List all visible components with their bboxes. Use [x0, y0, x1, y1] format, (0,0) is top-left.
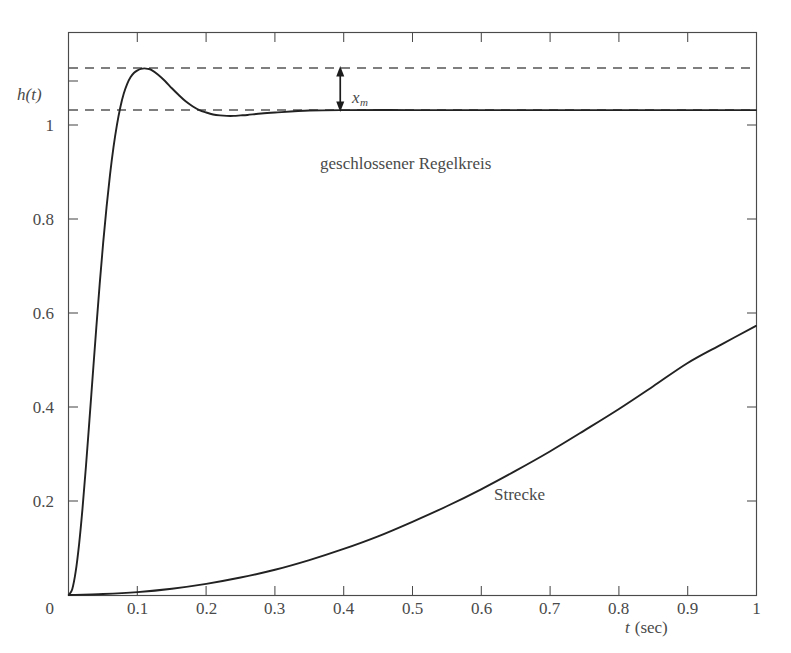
- y-tick-label-0-4: 0.4: [10, 399, 54, 416]
- x-tick-label-0-7: 0.7: [527, 600, 572, 617]
- x-tick-label-0-9: 0.9: [665, 600, 710, 617]
- overshoot-arrow: [336, 66, 344, 112]
- overshoot-label: xm: [352, 89, 368, 108]
- y-tick-label-0-8: 0.8: [10, 211, 54, 228]
- closed-loop-curve-label: geschlossener Regelkreis: [320, 155, 491, 172]
- x-tick-label-0-5: 0.5: [390, 600, 435, 617]
- y-tick-label-0-2: 0.2: [10, 493, 54, 510]
- y-axis-ticks-left: [69, 81, 78, 501]
- x-axis-title: t(sec): [625, 619, 668, 636]
- plant-curve-label: Strecke: [494, 486, 545, 503]
- x-tick-label-0-6: 0.6: [459, 600, 504, 617]
- overshoot-label-var: x: [352, 88, 360, 107]
- y-tick-label-1: 1: [26, 117, 54, 134]
- y-tick-label-0-origin: 0: [26, 600, 54, 617]
- x-axis-ticks-bottom: [137, 586, 687, 595]
- step-response-figure: 1 0.8 0.6 0.4 0.2 0 0.1 0.2 0.3 0.4 0.5 …: [0, 0, 791, 653]
- x-tick-label-0-8: 0.8: [596, 600, 641, 617]
- x-tick-label-0-1: 0.1: [115, 600, 160, 617]
- y-axis-ticks-right: [747, 125, 756, 501]
- y-axis-title: h(t): [17, 86, 42, 103]
- x-tick-label-0-2: 0.2: [184, 600, 229, 617]
- x-axis-ticks-top: [137, 33, 687, 42]
- y-tick-label-0-6: 0.6: [10, 305, 54, 322]
- x-tick-label-0-3: 0.3: [252, 600, 297, 617]
- x-tick-label-0-4: 0.4: [321, 600, 366, 617]
- plant-curve: [69, 326, 756, 595]
- plot-canvas: [0, 0, 791, 653]
- plot-frame: [69, 33, 757, 596]
- closed-loop-curve: [69, 68, 756, 595]
- overshoot-label-subscript: m: [360, 96, 368, 108]
- x-axis-title-var: t: [625, 618, 630, 637]
- x-tick-label-1: 1: [734, 600, 779, 617]
- x-axis-title-unit: (sec): [635, 618, 668, 637]
